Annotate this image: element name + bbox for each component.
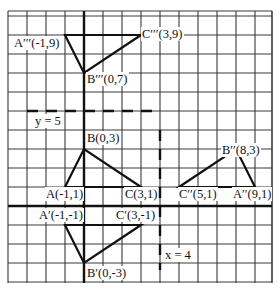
label-c: C(3,1) bbox=[124, 187, 158, 201]
label-c-double-prime: C′′(5,1) bbox=[178, 187, 218, 201]
label-c-triple-prime: C′′′(3,9) bbox=[141, 27, 184, 41]
label-b-triple-prime: B′′′(0,7) bbox=[86, 72, 129, 86]
label-b-prime: B′(0,-3) bbox=[86, 266, 127, 280]
label-a: A(-1,1) bbox=[45, 187, 84, 201]
label-a-double-prime: A′′(9,1) bbox=[232, 187, 272, 201]
label-b-double-prime: B′′(8,3) bbox=[221, 143, 261, 157]
label-x-equals-4: x = 4 bbox=[164, 248, 192, 262]
label-y-equals-5: y = 5 bbox=[34, 114, 62, 128]
label-b: B(0,3) bbox=[86, 131, 120, 145]
label-a-triple-prime: A′′′(-1,9) bbox=[13, 36, 60, 50]
label-c-prime: C′(3,-1) bbox=[115, 208, 156, 222]
label-a-prime: A′(-1,-1) bbox=[38, 208, 84, 222]
